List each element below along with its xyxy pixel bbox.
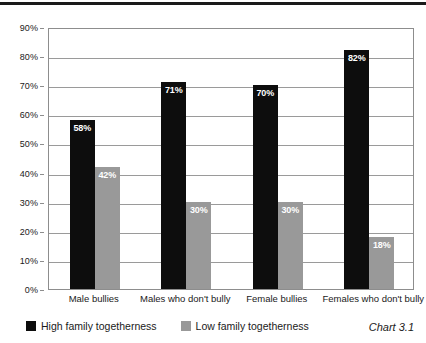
bar-value-label: 58% <box>70 123 95 133</box>
y-axis-tick-mark <box>40 144 44 145</box>
legend-swatch-icon <box>181 321 191 331</box>
y-axis-tick-mark <box>40 115 44 116</box>
y-axis-tick-label: 40% <box>20 169 38 179</box>
x-axis-tick-label: Females who don't bully <box>323 293 415 304</box>
y-axis-tick-label: 30% <box>20 198 38 208</box>
chart-legend: High family togethernessLow family toget… <box>26 320 333 332</box>
bar-value-label: 82% <box>344 53 369 63</box>
y-axis-tick-label: 0% <box>25 285 38 295</box>
y-axis-tick-mark <box>40 261 44 262</box>
x-axis-tick-label: Males who don't bully <box>140 293 232 304</box>
bar-low: 42% <box>95 167 120 289</box>
y-axis-tick-mark <box>40 174 44 175</box>
legend-label: Low family togetherness <box>196 320 309 332</box>
chart-figure: 0%10%20%30%40%50%60%70%80%90% 58%42%71%3… <box>0 0 426 343</box>
y-axis-tick-mark <box>40 290 44 291</box>
bar-low: 30% <box>186 202 211 289</box>
y-axis-tick-label: 90% <box>20 23 38 33</box>
bar-value-label: 70% <box>253 88 278 98</box>
bar-low: 18% <box>369 237 394 289</box>
bar-high: 70% <box>253 85 278 289</box>
y-axis-tick-label: 20% <box>20 227 38 237</box>
x-axis-category-labels: Male bulliesMales who don't bullyFemale … <box>48 293 414 311</box>
x-axis-tick-label: Male bullies <box>48 293 140 304</box>
bar-high: 82% <box>344 50 369 289</box>
legend-label: High family togetherness <box>41 320 157 332</box>
plot-area: 58%42%71%30%70%30%82%18% <box>48 28 414 290</box>
y-axis-tick-label: 10% <box>20 256 38 266</box>
y-axis-tick-label: 50% <box>20 139 38 149</box>
y-axis-tick-label: 70% <box>20 81 38 91</box>
bar-value-label: 42% <box>95 170 120 180</box>
top-divider-rule <box>0 2 426 5</box>
bar-value-label: 71% <box>161 85 186 95</box>
bar-value-label: 30% <box>186 205 211 215</box>
bar-low: 30% <box>278 202 303 289</box>
y-axis-tick-mark <box>40 86 44 87</box>
legend-item: High family togetherness <box>26 320 157 332</box>
y-axis-tick-mark <box>40 232 44 233</box>
legend-swatch-icon <box>26 321 36 331</box>
legend-item: Low family togetherness <box>181 320 309 332</box>
y-axis: 0%10%20%30%40%50%60%70%80%90% <box>0 28 44 290</box>
y-axis-tick-label: 60% <box>20 110 38 120</box>
y-axis-tick-mark <box>40 57 44 58</box>
bar-value-label: 18% <box>369 240 394 250</box>
y-axis-tick-mark <box>40 28 44 29</box>
bar-value-label: 30% <box>278 205 303 215</box>
x-axis-tick-label: Female bullies <box>231 293 323 304</box>
y-axis-tick-label: 80% <box>20 52 38 62</box>
bar-high: 71% <box>161 82 186 289</box>
y-axis-tick-mark <box>40 203 44 204</box>
bar-high: 58% <box>70 120 95 289</box>
chart-caption: Chart 3.1 <box>369 321 414 333</box>
